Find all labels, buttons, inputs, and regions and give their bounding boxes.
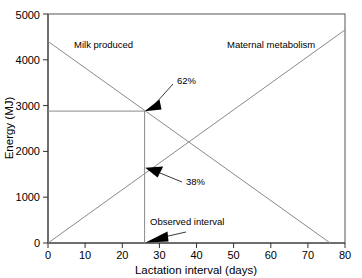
x-tick-label-10: 10: [79, 249, 91, 261]
annotation-arrow-observed-icon: [146, 232, 169, 243]
chart-figure: 0 1000 2000 3000 4000 5000 0 10 20 30 40…: [0, 0, 362, 278]
series-label-milk-produced: Milk produced: [74, 39, 133, 50]
x-tick-label-60: 60: [265, 249, 277, 261]
y-tick-label-5000: 5000: [16, 9, 40, 21]
x-tick-label-30: 30: [153, 249, 165, 261]
x-tick-label-40: 40: [190, 249, 202, 261]
x-axis-title: Lactation interval (days): [135, 264, 257, 276]
series-line-maternal-metabolism: [48, 30, 345, 243]
chart-canvas: 0 1000 2000 3000 4000 5000 0 10 20 30 40…: [0, 0, 362, 278]
y-tick-label-2000: 2000: [16, 145, 40, 157]
x-tick-label-0: 0: [45, 249, 51, 261]
annotation-label-observed-interval: Observed interval: [150, 216, 224, 227]
x-tick-label-80: 80: [339, 249, 351, 261]
annotation-label-62: 62%: [177, 75, 197, 86]
x-tick-label-20: 20: [116, 249, 128, 261]
x-tick-label-70: 70: [302, 249, 314, 261]
y-tick-label-3000: 3000: [16, 100, 40, 112]
annotation-arrow-62-icon: [145, 100, 162, 112]
annotation-label-38: 38%: [186, 176, 206, 187]
y-axis-title: Energy (MJ): [3, 97, 15, 160]
annotation-arrow-38-icon: [145, 167, 163, 178]
series-label-maternal-metabolism: Maternal metabolism: [227, 39, 315, 50]
x-tick-label-50: 50: [227, 249, 239, 261]
annotation-leader-38: [160, 173, 182, 182]
y-tick-label-0: 0: [34, 237, 40, 249]
y-tick-label-4000: 4000: [16, 54, 40, 66]
y-tick-label-1000: 1000: [16, 191, 40, 203]
